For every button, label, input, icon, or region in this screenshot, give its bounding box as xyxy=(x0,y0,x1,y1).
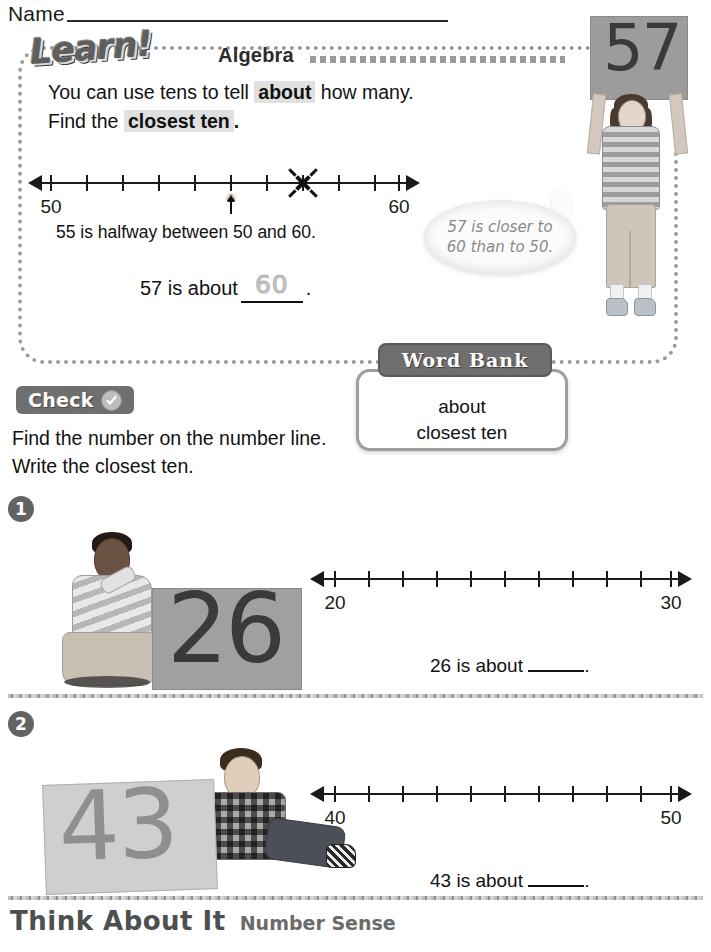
learn-answer-sentence: 57 is about 60 . xyxy=(140,272,311,303)
number-line-tick[interactable] xyxy=(670,786,672,802)
number-line-tick[interactable] xyxy=(334,786,336,802)
number-line-end-label: 50 xyxy=(660,807,681,829)
vocab-closest-ten: closest ten xyxy=(124,110,234,132)
sign-card-57: 57 xyxy=(590,16,688,100)
number-line-marker-x-icon xyxy=(286,166,320,200)
girl-pants xyxy=(606,204,656,288)
number-line-tick[interactable] xyxy=(402,571,404,587)
name-row: Name xyxy=(8,2,448,26)
check-label: Check xyxy=(28,389,94,411)
learn-answer-blank[interactable]: 60 xyxy=(241,272,303,303)
learn-text-line-1: You can use tens to tell about how many. xyxy=(48,78,414,107)
exercise-2-answer-sentence: 43 is about . xyxy=(430,870,590,892)
name-label: Name xyxy=(8,2,65,26)
sign-value-57: 57 xyxy=(603,11,680,85)
exercise-2-answer-blank[interactable] xyxy=(528,885,584,887)
number-line-end-label: 30 xyxy=(660,592,681,614)
exercise-1-number-line: 20 30 xyxy=(310,568,692,590)
number-line-tick[interactable] xyxy=(670,571,672,587)
think-about-it-subtitle: Number Sense xyxy=(240,912,396,934)
number-line-axis xyxy=(322,793,680,795)
name-write-line[interactable] xyxy=(67,20,448,22)
section-divider xyxy=(8,896,703,900)
number-line-tick xyxy=(266,175,268,191)
learn-body-text: You can use tens to tell about how many.… xyxy=(48,78,414,136)
speech-bubble: 57 is closer to 60 than to 50. xyxy=(424,200,576,274)
number-line-axis xyxy=(322,578,680,580)
sign-value-43: 43 xyxy=(57,767,179,883)
check-section-badge: Check xyxy=(16,386,134,414)
exercise-1-answer-blank[interactable] xyxy=(528,670,584,672)
number-line-tick xyxy=(230,175,232,191)
number-line-tick[interactable] xyxy=(538,786,540,802)
number-line-start-label: 40 xyxy=(324,807,345,829)
number-line-tick[interactable] xyxy=(640,786,642,802)
number-line-tick xyxy=(158,175,160,191)
number-line-tick[interactable] xyxy=(504,571,506,587)
boy1-shadow xyxy=(64,676,150,688)
exercise-1-answer-suffix: . xyxy=(584,655,589,676)
girl-shoe-left xyxy=(606,298,628,316)
learn-text-line-2: Find the closest ten. xyxy=(48,107,414,136)
learn-logo-text: Learn! xyxy=(29,24,153,72)
word-bank-panel: about closest ten xyxy=(356,369,568,451)
number-line-tick[interactable] xyxy=(606,571,608,587)
number-line-start-label: 50 xyxy=(40,196,61,218)
word-bank-items: about closest ten xyxy=(359,394,565,446)
number-line-tick[interactable] xyxy=(470,571,472,587)
number-line-tick xyxy=(338,175,340,191)
learn-number-line: 50 60 xyxy=(28,172,420,194)
number-line-tick xyxy=(122,175,124,191)
think-about-it-heading: Think About It Number Sense xyxy=(10,906,396,936)
number-line-tick[interactable] xyxy=(368,786,370,802)
exercise-2-answer-prefix: 43 is about xyxy=(430,870,523,891)
word-bank-item: about xyxy=(359,394,565,420)
photo-boy-with-sign-43: 43 xyxy=(44,738,344,890)
exercise-number-badge-2: 2 xyxy=(8,711,34,737)
learn-line2-post: . xyxy=(234,110,239,132)
sign-value-26: 26 xyxy=(167,573,283,685)
number-line-tick[interactable] xyxy=(640,571,642,587)
number-line-tick[interactable] xyxy=(572,786,574,802)
check-instruction-line-1: Find the number on the number line. xyxy=(12,424,326,452)
learn-line2-pre: Find the xyxy=(48,110,124,132)
number-line-tick xyxy=(50,175,52,191)
word-bank-title: Word Bank xyxy=(378,343,552,377)
number-line-halfway-arrow-icon xyxy=(225,194,237,214)
number-line-tick[interactable] xyxy=(436,571,438,587)
learn-line1-pre: You can use tens to tell xyxy=(48,81,254,103)
learn-header-dash-rule xyxy=(310,56,565,63)
number-line-tick[interactable] xyxy=(572,571,574,587)
halfway-explanation: 55 is halfway between 50 and 60. xyxy=(56,222,316,243)
sign-card-43: 43 xyxy=(42,779,218,895)
number-line-tick xyxy=(398,175,400,191)
number-line-tick[interactable] xyxy=(538,571,540,587)
word-bank-item: closest ten xyxy=(359,420,565,446)
number-line-tick[interactable] xyxy=(470,786,472,802)
sign-card-26: 26 xyxy=(152,588,302,690)
number-line-tick[interactable] xyxy=(334,571,336,587)
number-line-tick[interactable] xyxy=(606,786,608,802)
photo-boy-with-sign-26: 26 xyxy=(42,520,312,688)
number-line-axis xyxy=(40,182,408,184)
exercise-2-answer-suffix: . xyxy=(584,870,589,891)
number-line-tick xyxy=(374,175,376,191)
boy2-shoe xyxy=(326,844,356,868)
number-line-tick[interactable] xyxy=(402,786,404,802)
speech-bubble-line-1: 57 is closer to xyxy=(447,217,553,237)
exercise-1-answer-prefix: 26 is about xyxy=(430,655,523,676)
learn-answer-prefix: 57 is about xyxy=(140,277,238,300)
number-line-right-arrow-icon xyxy=(678,786,692,802)
number-line-tick[interactable] xyxy=(436,786,438,802)
number-line-tick[interactable] xyxy=(368,571,370,587)
number-line-tick[interactable] xyxy=(504,786,506,802)
girl-striped-shirt xyxy=(602,126,660,210)
check-instructions: Find the number on the number line. Writ… xyxy=(12,424,326,480)
learn-answer-suffix: . xyxy=(306,277,312,300)
check-instruction-line-2: Write the closest ten. xyxy=(12,452,326,480)
checkmark-circle-icon xyxy=(101,390,122,411)
exercise-1-answer-sentence: 26 is about . xyxy=(430,655,590,677)
number-line-right-arrow-icon xyxy=(678,571,692,587)
girl-shoe-right xyxy=(634,298,656,316)
exercise-number-badge-1: 1 xyxy=(8,496,34,522)
